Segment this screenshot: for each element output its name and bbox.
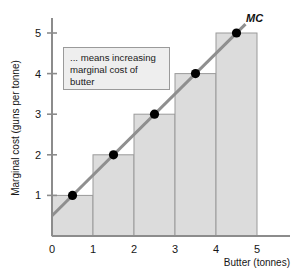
x-axis: 0 1 2 3 4 5 Butter (tonnes) <box>49 236 290 268</box>
bar-4 <box>216 33 257 236</box>
y-tick-label-5: 5 <box>35 27 41 39</box>
data-point-3 <box>191 69 200 78</box>
y-tick-label-3: 3 <box>35 108 41 120</box>
bar-2 <box>134 114 175 236</box>
x-tick-label-2: 2 <box>131 243 137 255</box>
y-tick-label-2: 2 <box>35 149 41 161</box>
annotation-callout: ... means increasing marginal cost of bu… <box>64 48 170 90</box>
y-tick-label-1: 1 <box>35 189 41 201</box>
data-point-4 <box>232 28 241 37</box>
x-tick-label-1: 1 <box>90 243 96 255</box>
annotation-line-1: ... means increasing <box>70 52 156 63</box>
annotation-line-3: butter <box>70 76 95 87</box>
data-point-1 <box>109 150 118 159</box>
mc-series-label: MC <box>246 12 264 24</box>
marginal-cost-chart: 1 2 3 4 5 Marginal cost (guns per tonne)… <box>0 0 304 280</box>
x-axis-title: Butter (tonnes) <box>224 257 290 268</box>
x-tick-label-0: 0 <box>49 243 55 255</box>
x-tick-label-3: 3 <box>172 243 178 255</box>
chart-canvas: 1 2 3 4 5 Marginal cost (guns per tonne)… <box>0 0 304 280</box>
x-tick-label-4: 4 <box>213 243 219 255</box>
data-point-0 <box>68 191 77 200</box>
y-tick-label-4: 4 <box>35 68 41 80</box>
bar-3 <box>175 74 216 236</box>
y-axis-title: Marginal cost (guns per tonne) <box>10 60 21 196</box>
annotation-line-2: marginal cost of <box>70 64 138 75</box>
x-tick-label-5: 5 <box>254 243 260 255</box>
bar-0 <box>52 195 93 236</box>
data-point-2 <box>150 110 159 119</box>
y-axis: 1 2 3 4 5 Marginal cost (guns per tonne) <box>10 18 57 236</box>
